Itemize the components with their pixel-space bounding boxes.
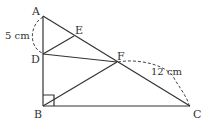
dimension-arc-ad	[32, 17, 43, 53]
diagram-svg: A E D F B C 5 cm 12 cm	[0, 0, 209, 121]
point-label-b: B	[34, 108, 42, 121]
measurement-fc: 12 cm	[151, 66, 183, 77]
point-label-a: A	[31, 5, 41, 18]
point-label-c: C	[193, 108, 201, 121]
point-label-f: F	[117, 50, 125, 63]
point-label-d: D	[31, 53, 40, 66]
measurement-ad: 5 cm	[5, 30, 30, 41]
segment-de	[43, 36, 74, 54]
point-label-e: E	[75, 24, 83, 37]
geometry-diagram: A E D F B C 5 cm 12 cm	[0, 0, 209, 121]
